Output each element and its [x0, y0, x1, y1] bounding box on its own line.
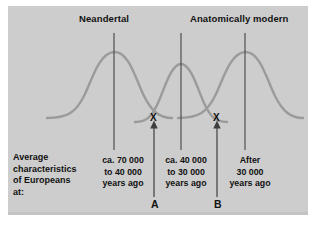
curve-title-anatomically-modern: Anatomically modern: [190, 14, 289, 24]
caption-line-3: of Europeans: [13, 175, 99, 187]
caption-line-4: at:: [13, 187, 99, 199]
period-2-line-2: 30 000: [221, 167, 279, 179]
period-0-line-3: years ago: [94, 178, 152, 190]
caption-line-1: Average: [13, 152, 99, 164]
point-label-a: A: [151, 199, 159, 210]
period-0-line-2: to 40 000: [94, 167, 152, 179]
crossing-marker-a-x: X: [150, 113, 157, 123]
figure-container: Neandertal Anatomically modern X X A B A…: [0, 0, 319, 226]
period-column-70000-40000: ca. 70 000 to 40 000 years ago: [94, 155, 152, 190]
caption-average-characteristics: Average characteristics of Europeans at:: [13, 152, 99, 198]
point-label-b: B: [214, 199, 222, 210]
peak-vertical-lines: [114, 33, 245, 150]
crossing-marker-b-x: X: [213, 113, 220, 123]
period-1-line-3: years ago: [157, 178, 215, 190]
period-column-after-30000: After 30 000 years ago: [221, 155, 279, 190]
period-0-line-1: ca. 70 000: [94, 155, 152, 167]
period-2-line-3: years ago: [221, 178, 279, 190]
period-2-line-1: After: [221, 155, 279, 167]
curve-title-neandertal: Neandertal: [79, 14, 129, 24]
caption-line-2: characteristics: [13, 164, 99, 176]
distribution-curves: [47, 52, 303, 122]
period-column-40000-30000: ca. 40 000 to 30 000 years ago: [157, 155, 215, 190]
period-1-line-2: to 30 000: [157, 167, 215, 179]
period-1-line-1: ca. 40 000: [157, 155, 215, 167]
curve-neandertal: [47, 52, 172, 118]
